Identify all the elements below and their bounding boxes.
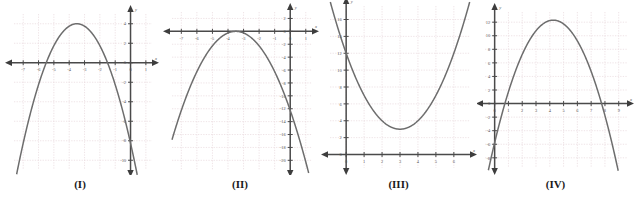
panel-1: -7-6-5-4-3-2-101420-2-4-6-8-10xy (I) (0, 0, 160, 203)
x-axis-arrow-left (5, 60, 12, 66)
x-tick-label: 4 (549, 108, 552, 113)
y-axis-arrow-down (287, 170, 293, 175)
x-tick-label: -7 (21, 67, 25, 72)
graph-svg-2: -7-6-5-4-3-2-10120-2-4-6-8-10-12-14-16-1… (160, 0, 320, 175)
chart-content-2: -7-6-5-4-3-2-10120-2-4-6-8-10-12-14-16-1… (163, 3, 319, 175)
y-tick-label: -8 (282, 81, 286, 86)
x-tick-label: 1 (507, 108, 509, 113)
y-tick-label: -20 (280, 158, 287, 163)
chart-content-3: 01234560246810121416xy (321, 0, 477, 175)
y-tick-label: 2 (488, 88, 490, 93)
x-tick-label: 6 (576, 108, 579, 113)
x-tick-label: 1 (305, 36, 307, 41)
x-tick-label: 9 (618, 108, 621, 113)
graph-svg-3: 01234560246810121416xy (320, 0, 477, 175)
plot-area-2: -7-6-5-4-3-2-10120-2-4-6-8-10-12-14-16-1… (160, 0, 320, 175)
chart-content-1: -7-6-5-4-3-2-101420-2-4-6-8-10xy (5, 5, 159, 175)
y-tick-label: -12 (280, 106, 286, 111)
y-tick-label: -2 (486, 115, 490, 120)
y-axis-name: y (350, 0, 354, 4)
x-tick-label: -4 (67, 67, 71, 72)
x-axis-name: x (629, 97, 632, 102)
y-axis-arrow-up (343, 0, 349, 4)
x-axis-arrow-left (477, 100, 483, 106)
x-tick-label: 0 (129, 67, 132, 72)
y-tick-label: 4 (339, 118, 342, 123)
x-tick-label: 6 (453, 159, 456, 164)
x-tick-label: 2 (381, 159, 383, 164)
x-axis-arrow-left (321, 151, 328, 157)
plot-area-3: 01234560246810121416xy (320, 0, 477, 175)
y-tick-label: 8 (339, 85, 342, 90)
y-axis-arrow-down (127, 170, 133, 175)
x-tick-label: -1 (273, 36, 277, 41)
parabola-figure-row: -7-6-5-4-3-2-101420-2-4-6-8-10xy (I) -7-… (0, 0, 634, 203)
x-tick-label: 3 (535, 108, 538, 113)
x-tick-label: -2 (257, 36, 261, 41)
x-axis-name: x (154, 56, 157, 61)
parabola-curve (488, 20, 618, 171)
x-tick-label: 0 (494, 108, 497, 113)
x-axis-arrow-left (163, 28, 170, 34)
x-tick-label: 0 (345, 159, 348, 164)
y-tick-label: 10 (486, 33, 491, 38)
y-axis-arrow-down (491, 168, 497, 175)
y-tick-label: -2 (282, 42, 286, 47)
y-axis-arrow-down (343, 168, 349, 175)
x-tick-label: -1 (113, 67, 117, 72)
y-axis-name: y (294, 5, 298, 10)
x-tick-label: 1 (145, 67, 147, 72)
x-tick-label: -5 (52, 67, 56, 72)
panel-2: -7-6-5-4-3-2-10120-2-4-6-8-10-12-14-16-1… (160, 0, 320, 203)
y-tick-label: 6 (339, 102, 342, 107)
caption-4: (IV) (477, 178, 634, 190)
panel-3: 01234560246810121416xy (III) (320, 0, 477, 203)
x-tick-label: -2 (98, 67, 102, 72)
y-tick-label: 12 (337, 51, 341, 56)
x-tick-label: -6 (37, 67, 41, 72)
x-tick-label: 4 (417, 159, 420, 164)
y-axis-name: y (134, 7, 138, 12)
parabola-curve (17, 24, 138, 175)
parabola-curve (172, 31, 309, 173)
y-tick-label: 2 (284, 16, 286, 21)
caption-3: (III) (320, 178, 477, 190)
y-tick-label: 2 (339, 135, 341, 140)
y-tick-label: 12 (486, 20, 490, 25)
x-tick-label: 5 (435, 159, 438, 164)
plot-area-1: -7-6-5-4-3-2-101420-2-4-6-8-10xy (0, 0, 160, 175)
y-tick-label: -6 (282, 68, 286, 73)
x-tick-label: 0 (289, 36, 292, 41)
chart-content-4: 0123456789121086420-2-4-6-8xy (477, 3, 634, 175)
graph-svg-4: 0123456789121086420-2-4-6-8xy (477, 0, 634, 175)
x-tick-label: 7 (590, 108, 593, 113)
graph-svg-1: -7-6-5-4-3-2-101420-2-4-6-8-10xy (0, 0, 160, 175)
y-axis-arrow-up (287, 3, 293, 10)
y-tick-label: -2 (122, 80, 126, 85)
panel-4: 0123456789121086420-2-4-6-8xy (IV) (477, 0, 634, 203)
x-tick-label: -5 (211, 36, 215, 41)
y-tick-label: -4 (282, 55, 286, 60)
y-axis-arrow-up (491, 3, 497, 10)
x-tick-label: -4 (226, 36, 230, 41)
x-tick-label: 3 (399, 159, 402, 164)
x-tick-label: 1 (363, 159, 365, 164)
x-tick-label: -3 (242, 36, 246, 41)
x-axis-name: x (472, 148, 475, 153)
x-tick-label: -6 (195, 36, 199, 41)
x-tick-label: -3 (83, 67, 87, 72)
x-tick-label: 5 (562, 108, 565, 113)
y-tick-label: 2 (124, 41, 126, 46)
y-axis-name: y (498, 5, 502, 10)
x-tick-label: 2 (521, 108, 523, 113)
y-tick-label: -18 (280, 145, 287, 150)
x-axis-name: x (314, 24, 317, 29)
x-tick-label: -7 (179, 36, 183, 41)
caption-1: (I) (0, 178, 160, 190)
caption-2: (II) (160, 178, 320, 190)
y-tick-label: -16 (280, 132, 287, 137)
plot-area-4: 0123456789121086420-2-4-6-8xy (477, 0, 634, 175)
y-axis-arrow-up (127, 5, 133, 12)
y-tick-label: -14 (280, 119, 287, 124)
y-tick-label: -10 (120, 158, 127, 163)
